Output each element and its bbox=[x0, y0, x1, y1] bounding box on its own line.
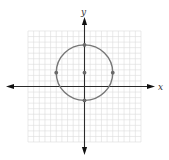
point-right bbox=[111, 71, 115, 75]
point-center bbox=[83, 71, 87, 75]
x-axis-label: x bbox=[158, 82, 163, 92]
y-axis-up-arrow bbox=[82, 17, 87, 25]
x-axis-left-arrow bbox=[6, 84, 14, 89]
point-bottom bbox=[83, 98, 87, 102]
point-left bbox=[54, 71, 58, 75]
axes bbox=[6, 17, 155, 155]
circle-graph: x y bbox=[0, 0, 169, 160]
y-axis-down-arrow bbox=[82, 147, 87, 155]
x-axis-right-arrow bbox=[147, 84, 155, 89]
point-top bbox=[83, 43, 87, 47]
y-axis-label: y bbox=[80, 7, 87, 17]
